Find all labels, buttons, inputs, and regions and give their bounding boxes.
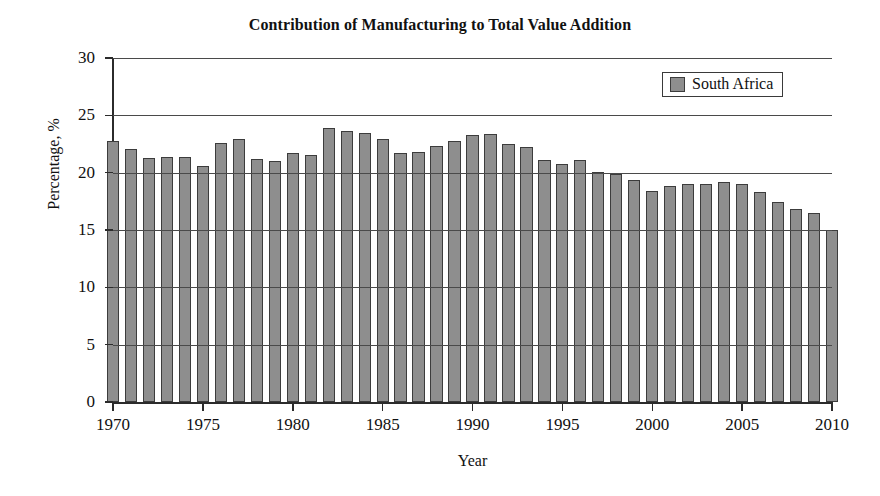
x-axis-tick <box>472 402 474 411</box>
y-axis-tick <box>105 115 113 117</box>
x-axis-tick <box>562 402 564 411</box>
bar <box>646 191 658 402</box>
bar <box>161 157 173 402</box>
gridline <box>113 345 832 346</box>
bar <box>790 209 802 402</box>
x-axis-tick <box>652 402 654 411</box>
bar <box>574 160 586 402</box>
x-axis-tick-label: 2010 <box>802 416 862 433</box>
bar <box>107 141 119 402</box>
bar <box>394 153 406 402</box>
bar <box>179 157 191 402</box>
bar <box>700 184 712 402</box>
plot-area <box>113 58 832 402</box>
bar <box>538 160 550 402</box>
x-axis-tick <box>831 402 833 411</box>
bar <box>269 161 281 402</box>
bar <box>520 147 532 402</box>
y-axis-tick-label: 10 <box>55 278 95 295</box>
y-axis-tick <box>105 344 113 346</box>
bar <box>718 182 730 402</box>
bar <box>664 186 676 402</box>
y-axis-tick <box>105 287 113 289</box>
x-axis-tick <box>382 402 384 411</box>
x-axis-tick <box>292 402 294 411</box>
x-axis-tick-label: 1995 <box>532 416 592 433</box>
bar <box>502 144 514 402</box>
bar <box>736 184 748 402</box>
bar <box>484 134 496 402</box>
x-axis-tick <box>741 402 743 411</box>
y-axis-tick <box>105 229 113 231</box>
y-axis-tick <box>105 57 113 59</box>
bar <box>682 184 694 402</box>
bar <box>430 146 442 402</box>
bar <box>448 141 460 402</box>
bar <box>808 213 820 402</box>
gridline <box>113 58 832 59</box>
bar <box>466 135 478 402</box>
gridline <box>113 115 832 116</box>
chart-title: Contribution of Manufacturing to Total V… <box>0 16 880 34</box>
legend-swatch-icon <box>670 77 685 92</box>
x-axis-tick-label: 1970 <box>83 416 143 433</box>
x-axis-tick-label: 1985 <box>353 416 413 433</box>
bar <box>826 230 838 402</box>
bar <box>305 155 317 402</box>
bar <box>233 139 245 402</box>
bar <box>772 202 784 402</box>
bar <box>287 153 299 402</box>
bar <box>251 159 263 402</box>
x-axis-tick-label: 1975 <box>173 416 233 433</box>
bar <box>323 128 335 402</box>
bar <box>754 192 766 402</box>
bar <box>628 180 640 402</box>
bar <box>125 149 137 402</box>
bar <box>215 143 227 402</box>
bar <box>377 139 389 402</box>
x-axis-tick-label: 2000 <box>622 416 682 433</box>
bar <box>412 152 424 402</box>
x-axis-tick <box>112 402 114 411</box>
y-axis-tick-label: 0 <box>55 393 95 410</box>
bar-chart: Contribution of Manufacturing to Total V… <box>0 0 880 496</box>
x-axis-tick-label: 2005 <box>712 416 772 433</box>
x-axis-tick-label: 1980 <box>263 416 323 433</box>
x-axis-tick-label: 1990 <box>443 416 503 433</box>
y-axis-tick-label: 5 <box>55 336 95 353</box>
y-axis-title: Percentage, % <box>45 64 63 264</box>
x-axis-tick <box>202 402 204 411</box>
bar <box>197 166 209 402</box>
legend-label-south-africa: South Africa <box>692 76 773 92</box>
bar <box>143 158 155 402</box>
gridline <box>113 173 832 174</box>
gridline <box>113 230 832 231</box>
gridline <box>113 287 832 288</box>
bar <box>556 164 568 403</box>
y-axis-tick <box>105 172 113 174</box>
chart-legend: South Africa <box>662 72 783 97</box>
x-axis-title: Year <box>113 452 832 470</box>
